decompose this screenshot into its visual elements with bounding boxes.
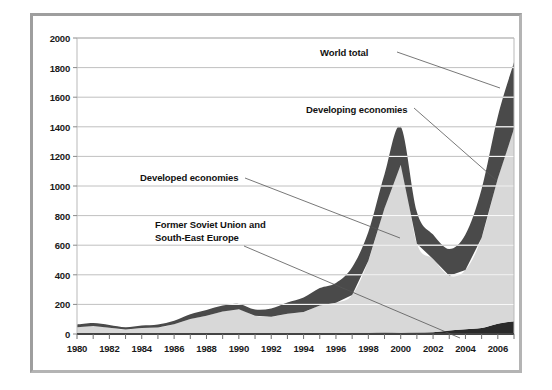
x-axis-label-1990: 1990: [229, 343, 249, 354]
y-axis-label-200: 200: [30, 299, 70, 310]
y-axis-label-800: 800: [30, 210, 70, 221]
chart-figure: 0200400600800100012001400160018002000 19…: [0, 0, 552, 390]
annotation-label-4: Former Soviet Union and South-East Europ…: [155, 219, 266, 244]
x-axis-label-1980: 1980: [67, 343, 87, 354]
x-axis-label-1986: 1986: [164, 343, 184, 354]
x-axis-label-1992: 1992: [261, 343, 281, 354]
annotation-label-1: World total: [320, 47, 368, 60]
y-axis-label-600: 600: [30, 240, 70, 251]
y-axis-label-1600: 1600: [30, 92, 70, 103]
x-axis-label-2000: 2000: [391, 343, 411, 354]
chart-plot-area: [33, 16, 519, 370]
x-axis-label-1998: 1998: [358, 343, 378, 354]
x-axis-label-2006: 2006: [488, 343, 508, 354]
y-axis-label-1800: 1800: [30, 62, 70, 73]
x-axis-label-2004: 2004: [455, 343, 475, 354]
y-axis-label-0: 0: [30, 329, 70, 340]
x-axis-label-1996: 1996: [326, 343, 346, 354]
y-axis-label-2000: 2000: [30, 33, 70, 44]
x-axis-label-1988: 1988: [196, 343, 216, 354]
annotation-label-2: Developing economies: [306, 104, 407, 117]
y-axis-label-400: 400: [30, 269, 70, 280]
y-axis-label-1400: 1400: [30, 121, 70, 132]
annotation-label-3: Developed economies: [140, 172, 238, 185]
y-axis-label-1200: 1200: [30, 151, 70, 162]
x-axis-label-1994: 1994: [293, 343, 313, 354]
y-axis-label-1000: 1000: [30, 181, 70, 192]
chart-frame: [30, 13, 522, 373]
x-axis-label-2002: 2002: [423, 343, 443, 354]
x-axis-label-1982: 1982: [99, 343, 119, 354]
x-axis-label-1984: 1984: [132, 343, 152, 354]
